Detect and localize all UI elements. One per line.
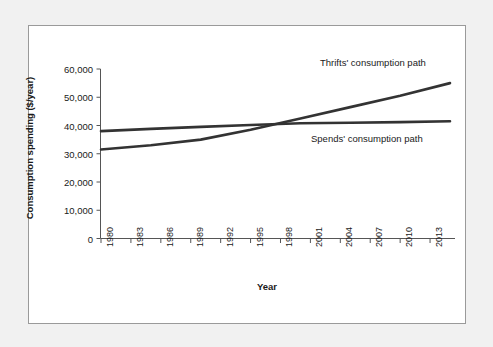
y-tick-label: 30,000 — [64, 148, 93, 159]
y-tick-label: 10,000 — [64, 205, 93, 216]
y-tick-label: 40,000 — [64, 120, 93, 131]
y-tick-label: 50,000 — [64, 92, 93, 103]
x-tick-label: 1998 — [284, 226, 294, 246]
y-axis-title: Consumption spending ($/year) — [24, 77, 35, 220]
x-tick-label: 2007 — [374, 226, 384, 246]
x-tick-label: 2010 — [404, 226, 414, 246]
chart-plot-svg — [0, 0, 493, 347]
x-tick-label: 1986 — [165, 226, 175, 246]
x-tick-label: 1995 — [255, 226, 265, 246]
y-tick-label: 0 — [88, 233, 93, 244]
data-line-spends — [101, 121, 450, 131]
x-axis-title: Year — [257, 281, 277, 292]
x-tick-label: 1980 — [105, 226, 115, 246]
series-label-thrifts: Thrifts' consumption path — [320, 57, 426, 68]
x-tick-label: 2001 — [314, 226, 324, 246]
y-tick-label: 60,000 — [64, 64, 93, 75]
x-tick-label: 1989 — [195, 226, 205, 246]
y-tick-marks — [97, 69, 101, 239]
x-tick-label: 2013 — [434, 226, 444, 246]
x-tick-label: 1992 — [225, 226, 235, 246]
x-tick-label: 1983 — [135, 226, 145, 246]
x-tick-label: 2004 — [344, 226, 354, 246]
series-label-spends: Spends' consumption path — [311, 133, 423, 144]
y-tick-label: 20,000 — [64, 177, 93, 188]
